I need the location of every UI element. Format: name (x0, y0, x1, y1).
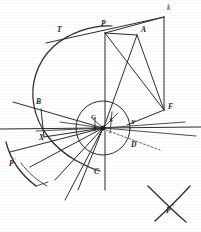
label-point-s: S (109, 117, 113, 124)
fan-ray-4 (78, 128, 103, 190)
label-p-prime-mark: ' (14, 157, 16, 163)
figure-canvas (0, 0, 201, 232)
geometric-figure: T P A k B F X G S Y D C P' P'' (0, 0, 201, 232)
ray-left-upper-to-center (13, 102, 103, 128)
label-point-y: Y (131, 119, 135, 126)
edge-p-a (105, 33, 137, 35)
fan-ray-5 (65, 128, 103, 200)
label-point-b: B (36, 98, 41, 106)
ray-wnw (60, 122, 103, 128)
fan-ray-1 (10, 128, 103, 152)
label-point-p-prime: P' (9, 157, 15, 167)
label-point-x: X (39, 134, 44, 142)
label-point-t: T (57, 26, 62, 34)
node-g (93, 126, 96, 129)
diagonal-a-s (104, 35, 137, 127)
label-point-a: A (141, 26, 146, 34)
ray-ese (103, 128, 196, 136)
label-point-c: C (94, 168, 99, 176)
label-point-k: k (167, 4, 170, 12)
label-point-d: D (131, 141, 137, 149)
label-point-f: F (168, 103, 173, 111)
arc-inner-lower-left (21, 163, 47, 186)
label-point-p: P (101, 20, 106, 28)
edge-a-f (137, 35, 164, 110)
label-point-g: G (91, 114, 96, 121)
label-p-double-prime-mark: '' (171, 204, 175, 210)
main-spiral-arc (33, 26, 112, 171)
label-point-p-double-prime: P'' (166, 204, 174, 214)
center-node-s (100, 125, 105, 130)
